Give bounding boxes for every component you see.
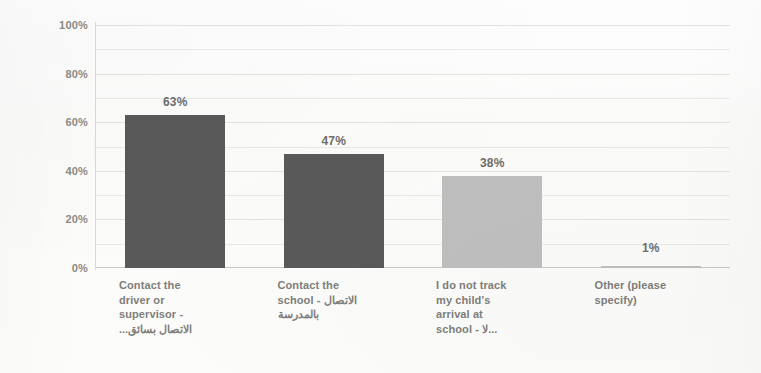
y-axis-tick-labels: 100% 80% 60% 40% 20% 0% [32, 25, 88, 268]
bar-value-0: 63% [163, 95, 188, 109]
category-0-line-2: driver or [119, 294, 165, 306]
category-3-line-1: Other (please [595, 279, 667, 291]
bar-contact-driver[interactable] [125, 115, 225, 268]
y-tick-label-0: 0% [36, 262, 88, 274]
bar-other[interactable] [601, 266, 701, 268]
category-label-contact-school: Contact the school - الاتصال بالمدرسة [278, 278, 390, 322]
category-0-line-3: supervisor - [119, 308, 183, 320]
y-tick-label-80: 80% [36, 68, 88, 80]
bar-group-2: 38% [413, 25, 572, 268]
bar-contact-school[interactable] [284, 154, 384, 268]
bar-chart: 100% 80% 60% 40% 20% 0% 63% 47% [0, 0, 761, 373]
category-2-line-2: my child's [436, 294, 490, 306]
category-0-line-4-arabic: الاتصال بسائق... [119, 323, 192, 335]
y-tick-label-20: 20% [36, 213, 88, 225]
category-label-contact-driver: Contact the driver or supervisor - الاتص… [119, 278, 231, 336]
category-label-other: Other (please specify) [595, 278, 707, 307]
bar-group-0: 63% [96, 25, 255, 268]
bar-value-1: 47% [321, 134, 346, 148]
bar-value-2: 38% [480, 156, 505, 170]
category-3-line-2: specify) [595, 294, 637, 306]
y-tick-label-100: 100% [36, 19, 88, 31]
category-2-line-3: arrival at [436, 308, 483, 320]
category-2-line-4: school - لا... [436, 323, 497, 335]
bar-group-1: 47% [255, 25, 414, 268]
category-0-line-1: Contact the [119, 279, 181, 291]
y-tick-label-60: 60% [36, 116, 88, 128]
bar-group-3: 1% [572, 25, 731, 268]
category-2-line-1: I do not track [436, 279, 506, 291]
category-1-line-1: Contact the [278, 279, 340, 291]
y-tick-label-40: 40% [36, 165, 88, 177]
bar-value-3: 1% [642, 241, 660, 255]
plot-area: 63% 47% 38% 1% [96, 25, 730, 268]
category-1-line-3-arabic: بالمدرسة [278, 308, 319, 320]
category-1-line-2: school - الاتصال [278, 294, 357, 306]
bar-do-not-track[interactable] [442, 176, 542, 268]
x-axis-category-labels: Contact the driver or supervisor - الاتص… [96, 278, 730, 368]
category-label-do-not-track: I do not track my child's arrival at sch… [436, 278, 548, 336]
